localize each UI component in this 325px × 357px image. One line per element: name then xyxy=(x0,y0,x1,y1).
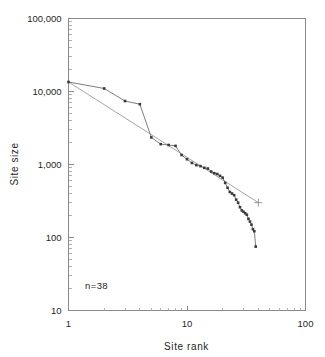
data-point-marker xyxy=(195,164,198,167)
data-point-marker xyxy=(253,230,256,233)
x-axis-title: Site rank xyxy=(164,341,209,352)
observed-data-series xyxy=(67,81,257,248)
data-point-marker xyxy=(221,176,224,179)
x-tick-label: 1 xyxy=(66,318,71,329)
x-axis-tick-labels: 110100 xyxy=(66,318,314,329)
data-point-marker xyxy=(180,154,183,157)
data-point-marker xyxy=(235,198,238,201)
rank-size-log-log-plot: 101001,00010,000100,000 110100 Site rank… xyxy=(0,0,325,357)
data-point-marker xyxy=(124,100,127,103)
data-point-marker xyxy=(186,158,189,161)
data-point-marker xyxy=(237,201,240,204)
x-tick-label: 100 xyxy=(298,318,314,329)
y-axis-title: Site size xyxy=(9,142,20,185)
data-point-marker xyxy=(219,175,222,178)
data-point-marker xyxy=(67,81,70,84)
y-tick-label: 100,000 xyxy=(27,13,61,24)
data-point-marker xyxy=(167,144,170,147)
data-point-marker xyxy=(139,103,142,106)
data-point-marker xyxy=(210,170,213,173)
data-point-marker xyxy=(203,167,206,170)
data-point-marker xyxy=(224,182,227,185)
data-point-marker xyxy=(213,172,216,175)
data-point-marker xyxy=(199,165,202,168)
y-tick-label: 1,000 xyxy=(38,159,62,170)
x-tick-label: 10 xyxy=(182,318,193,329)
data-point-marker xyxy=(239,206,242,209)
data-point-marker xyxy=(254,245,257,248)
data-point-marker xyxy=(216,173,219,176)
data-point-marker xyxy=(246,213,249,216)
y-tick-label: 100 xyxy=(46,232,62,243)
data-point-marker xyxy=(249,220,252,223)
data-point-marker xyxy=(103,87,106,90)
x-axis-ticks xyxy=(69,306,306,311)
data-point-marker xyxy=(250,223,253,226)
data-point-marker xyxy=(247,218,250,221)
data-point-marker xyxy=(207,167,210,170)
data-point-marker xyxy=(159,143,162,146)
y-tick-label: 10 xyxy=(51,305,62,316)
sample-size-annotation: n=38 xyxy=(85,280,108,291)
y-axis-ticks xyxy=(69,19,74,311)
data-point-marker xyxy=(150,136,153,139)
data-point-marker xyxy=(226,186,229,189)
data-point-marker xyxy=(174,145,177,148)
plot-frame xyxy=(69,19,306,311)
y-axis-tick-labels: 101001,00010,000100,000 xyxy=(27,13,61,316)
data-point-marker xyxy=(191,162,194,165)
data-point-marker xyxy=(233,194,236,197)
chart-figure: 101001,00010,000100,000 110100 Site rank… xyxy=(0,0,325,357)
y-tick-label: 10,000 xyxy=(32,86,61,97)
